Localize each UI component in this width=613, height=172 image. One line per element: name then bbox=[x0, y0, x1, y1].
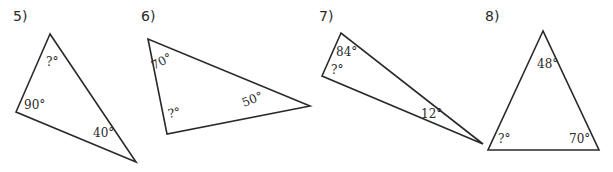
triangle-7: 84° ?° 12° bbox=[322, 33, 483, 144]
triangles-figure: ?° 90° 40° 70° ?° 50° 84° ?° 12° 48° ?° … bbox=[0, 0, 613, 172]
angle-5-right: 40° bbox=[93, 126, 114, 140]
angle-8-right: 70° bbox=[569, 132, 590, 146]
angle-8-top: 48° bbox=[537, 57, 558, 71]
angle-7-right: 12° bbox=[421, 107, 442, 121]
angle-8-left: ?° bbox=[498, 132, 510, 146]
angle-5-top: ?° bbox=[46, 55, 58, 69]
triangle-5: ?° 90° 40° bbox=[16, 34, 136, 162]
angle-5-left: 90° bbox=[24, 98, 45, 112]
angle-7-top: 84° bbox=[336, 45, 357, 59]
triangle-8: 48° ?° 70° bbox=[488, 31, 599, 150]
angle-7-left: ?° bbox=[331, 63, 343, 77]
angle-6-top-left: 70° bbox=[149, 50, 174, 72]
triangle-6: 70° ?° 50° bbox=[148, 39, 310, 134]
angle-6-bottom: ?° bbox=[167, 105, 182, 121]
angle-6-right: 50° bbox=[240, 89, 265, 110]
